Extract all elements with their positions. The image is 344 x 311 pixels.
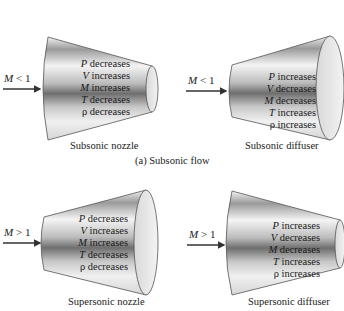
property-row: P decreases xyxy=(72,213,128,225)
property-row: V increases xyxy=(74,70,130,82)
property-row: M increases xyxy=(74,82,130,94)
property-row: T decreases xyxy=(72,249,128,261)
title-subsonic-nozzle: Subsonic nozzle xyxy=(70,140,139,151)
property-list-supersonic-diffuser: P increases V decreases M decreases T in… xyxy=(264,220,320,280)
property-row: ρ decreases xyxy=(72,261,128,273)
property-row: V increases xyxy=(72,225,128,237)
property-row: ρ increases xyxy=(264,268,320,280)
property-row: ρ decreases xyxy=(74,106,130,118)
property-row: T increases xyxy=(264,256,320,268)
property-row: V decreases xyxy=(264,232,320,244)
property-row: M increases xyxy=(72,237,128,249)
property-row: ρ increases xyxy=(260,119,316,131)
property-row: M decreases xyxy=(264,244,320,256)
mach-label-subsonic-diffuser: M < 1 xyxy=(188,74,214,86)
property-row: P increases xyxy=(260,71,316,83)
property-row: M decreases xyxy=(260,95,316,107)
property-row: P increases xyxy=(264,220,320,232)
title-subsonic-diffuser: Subsonic diffuser xyxy=(245,140,319,151)
property-list-supersonic-nozzle: P decreases V increases M increases T de… xyxy=(72,213,128,273)
title-supersonic-diffuser: Supersonic diffuser xyxy=(248,296,330,307)
mach-label-subsonic-nozzle: M < 1 xyxy=(4,72,30,84)
mach-label-supersonic-nozzle: M > 1 xyxy=(4,226,30,238)
property-row: P decreases xyxy=(74,58,130,70)
caption-subsonic-flow: (a) Subsonic flow xyxy=(135,155,210,166)
property-row: T increases xyxy=(260,107,316,119)
property-row: T decreases xyxy=(74,94,130,106)
property-list-subsonic-nozzle: P decreases V increases M increases T de… xyxy=(74,58,130,118)
property-list-subsonic-diffuser: P increases V decreases M decreases T in… xyxy=(260,71,316,131)
mach-label-supersonic-diffuser: M > 1 xyxy=(189,228,215,240)
title-supersonic-nozzle: Supersonic nozzle xyxy=(68,296,145,307)
property-row: V decreases xyxy=(260,83,316,95)
